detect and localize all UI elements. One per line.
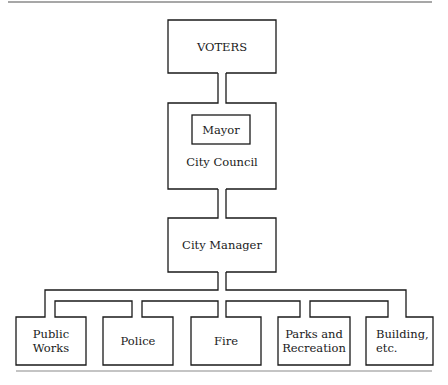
- dept-police: Police: [103, 317, 173, 365]
- dept-building: Building, etc.: [366, 317, 433, 365]
- dept-label-line2: Works: [33, 341, 69, 355]
- dept-label-line1: Building,: [376, 327, 429, 341]
- dept-label-line1: Parks and: [285, 327, 343, 341]
- dept-public-works: Public Works: [16, 317, 86, 365]
- voters-label: VOTERS: [168, 20, 276, 73]
- city-manager-label: City Manager: [168, 218, 276, 272]
- dept-label-line1: Public: [33, 327, 69, 341]
- dept-label-line1: Fire: [214, 334, 238, 348]
- dept-parks-recreation: Parks and Recreation: [278, 317, 350, 365]
- dept-label-line1: Police: [121, 334, 156, 348]
- mayor-label: Mayor: [192, 115, 250, 144]
- dept-label-line2: etc.: [376, 341, 398, 355]
- dept-label-line2: Recreation: [282, 341, 346, 355]
- dept-fire: Fire: [191, 317, 261, 365]
- city-council-label: City Council: [168, 152, 276, 172]
